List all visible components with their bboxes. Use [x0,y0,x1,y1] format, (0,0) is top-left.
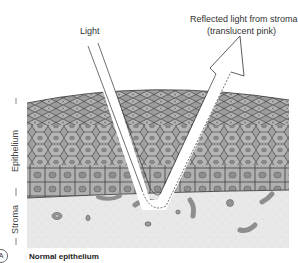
epithelium-layer [27,80,289,200]
reflected-light-sublabel: (translucent pink) [207,26,276,37]
light-label: Light [80,26,100,37]
stroma-label: Stroma [10,205,20,234]
reflected-light-label: Reflected light from stroma [190,14,298,25]
epithelium-label: Epithelium [10,130,20,172]
reflected-arrow-head [210,36,244,76]
figure-caption: Normal epithelium [29,252,99,261]
